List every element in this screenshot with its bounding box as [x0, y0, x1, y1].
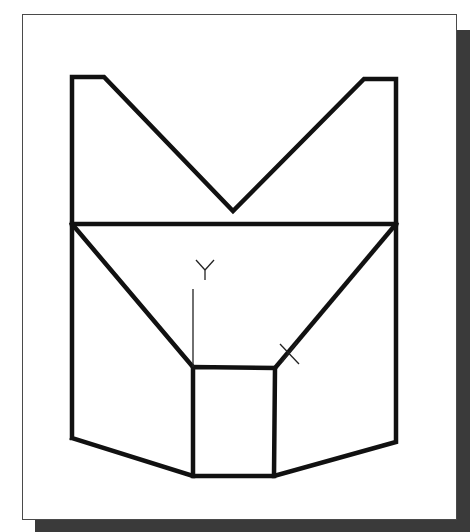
- center-rectangle: [193, 367, 275, 476]
- cad-drawing-canvas[interactable]: Y: [0, 0, 474, 532]
- outer-outline: [72, 77, 396, 476]
- left-funnel-edge: [72, 224, 193, 367]
